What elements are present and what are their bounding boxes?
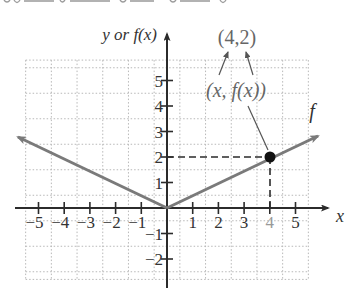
x-tick-label: −1 — [128, 213, 146, 232]
function-graph: −5−4−3−2−112345 −2−112345 (4,2) (x, f(x)… — [0, 0, 357, 306]
x-tick-label: −4 — [51, 213, 70, 232]
y-tick-labels: −2−112345 — [145, 72, 164, 270]
highlight-point — [265, 152, 276, 163]
x-tick-label: −5 — [25, 213, 43, 232]
axes — [15, 34, 328, 288]
x-tick-label: 5 — [291, 213, 300, 232]
cropped-caption-fragment — [0, 0, 357, 6]
y-tick-label: 1 — [155, 174, 164, 193]
x-tick-label: 4 — [266, 213, 275, 232]
y-axis-title: y or f(x) — [100, 25, 157, 44]
y-tick-label: 2 — [155, 148, 164, 167]
point-label: (4,2) — [218, 26, 256, 49]
annotation-pointers — [219, 52, 268, 150]
y-tick-label: −1 — [145, 225, 163, 244]
function-label: f — [309, 100, 317, 123]
curve-left-branch — [18, 137, 167, 208]
y-tick-label: 3 — [155, 123, 164, 142]
y-tick-label: 5 — [155, 72, 164, 91]
x-tick-label: −3 — [77, 213, 95, 232]
curve-right-branch — [167, 136, 318, 208]
x-tick-label: 3 — [240, 213, 249, 232]
y-tick-label: −2 — [145, 250, 163, 269]
x-axis-title: x — [335, 206, 344, 226]
x-tick-label: 1 — [188, 213, 197, 232]
y-tick-label: 4 — [155, 97, 164, 116]
x-tick-label: −2 — [103, 213, 121, 232]
generic-point-label: (x, f(x)) — [206, 79, 266, 102]
x-tick-label: 2 — [214, 213, 223, 232]
